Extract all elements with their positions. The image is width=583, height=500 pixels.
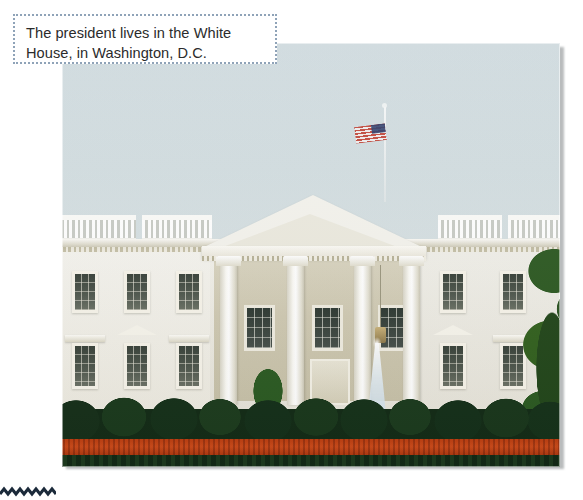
portico-window xyxy=(312,305,343,351)
column-capital xyxy=(216,256,241,266)
pediment-tympanum xyxy=(220,214,400,248)
facade-window xyxy=(176,271,202,313)
flagpole xyxy=(384,107,386,202)
window-mullions xyxy=(247,308,272,348)
window-hood xyxy=(169,335,209,342)
window-mullions xyxy=(127,346,147,386)
window-mullions xyxy=(443,274,463,310)
window-mullions xyxy=(75,274,95,310)
low-hedge-row xyxy=(62,455,560,467)
zigzag-rule-icon xyxy=(0,486,56,498)
white-house-photo xyxy=(62,43,560,467)
column-capital xyxy=(399,256,424,266)
facade-window xyxy=(176,343,202,389)
window-pediment xyxy=(117,325,157,335)
window-mullions xyxy=(179,274,199,310)
facade-window xyxy=(72,271,98,313)
window-mullions xyxy=(179,346,199,386)
portico-column xyxy=(220,265,237,405)
column-capital xyxy=(283,256,308,266)
portico-window xyxy=(244,305,275,351)
flag-canton xyxy=(371,123,386,134)
window-mullions xyxy=(75,346,95,386)
window-hood xyxy=(65,335,105,342)
window-mullions xyxy=(443,346,463,386)
portico-column xyxy=(287,265,304,405)
portico-column xyxy=(403,265,420,405)
lantern-cord xyxy=(380,265,381,329)
facade-window xyxy=(72,343,98,389)
caption-box: The president lives in the White House, … xyxy=(13,14,277,64)
window-pediment xyxy=(433,325,473,335)
column-capital xyxy=(350,256,375,266)
caption-text: The president lives in the White House, … xyxy=(26,23,265,63)
window-mullions xyxy=(127,274,147,310)
facade-window xyxy=(440,271,466,313)
facade-window xyxy=(440,343,466,389)
roof-balustrade xyxy=(438,219,502,240)
photo-content xyxy=(62,43,560,467)
window-mullions xyxy=(315,308,340,348)
roof-balustrade xyxy=(508,219,560,240)
facade-window xyxy=(124,271,150,313)
portico-column xyxy=(354,265,371,405)
roof-balustrade xyxy=(142,219,212,240)
roof-balustrade xyxy=(62,219,136,240)
facade-window xyxy=(124,343,150,389)
